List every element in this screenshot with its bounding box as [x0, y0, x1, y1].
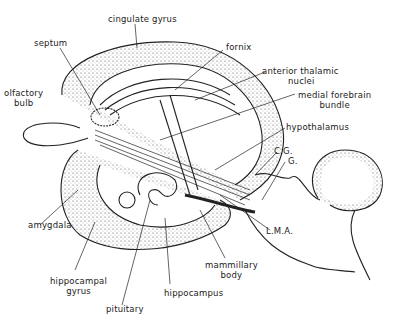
olfactory-bulb-shape — [23, 123, 88, 146]
label-g: G. — [288, 156, 298, 166]
label-hippocampus: hippocampus — [164, 288, 223, 298]
label-fornix: fornix — [226, 42, 252, 52]
label-hypothalamus: hypothalamus — [286, 122, 349, 132]
label-lma: L.M.A. — [266, 226, 293, 236]
label-pituitary: pituitary — [106, 304, 144, 314]
limbic-diagram: cingulate gyrus septum fornix anterior t… — [0, 0, 395, 328]
label-anterior-thalamic: anterior thalamic nuclei — [262, 66, 339, 86]
label-mammillary-body: mammillary body — [205, 260, 258, 280]
label-olfactory-bulb: olfactory bulb — [4, 88, 43, 108]
label-amygdala: amygdala — [28, 220, 72, 230]
label-septum: septum — [34, 38, 67, 48]
label-hippocampal-gyrus: hippocampal gyrus — [50, 276, 107, 296]
label-cingulate-gyrus: cingulate gyrus — [108, 14, 177, 24]
label-cg: C.G. — [274, 146, 293, 156]
label-medial-forebrain-bundle: medial forebrain bundle — [298, 90, 371, 110]
